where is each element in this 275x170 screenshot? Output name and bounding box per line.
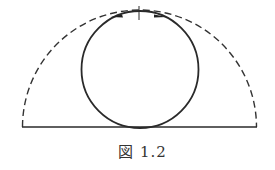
figure-caption: 図 1.2 (0, 140, 275, 161)
dashed-semicircle (23, 10, 257, 127)
inner-circle (82, 11, 199, 128)
